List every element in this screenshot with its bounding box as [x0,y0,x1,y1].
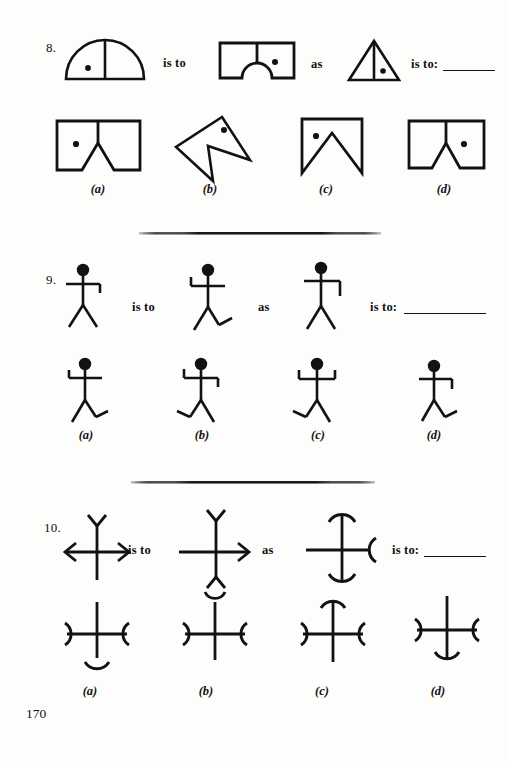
q10-option-a-figure[interactable] [54,596,140,674]
q10-option-c-figure[interactable] [290,592,376,672]
q9-prompt-figure-3 [296,260,354,332]
q9-option-d-label: (d) [414,428,454,443]
q8-option-c-figure[interactable] [298,116,368,178]
q8-option-a-figure[interactable] [54,118,144,176]
q10-answer-blank[interactable] [424,556,486,557]
q9-option-b-figure[interactable] [172,356,234,426]
section-divider-2 [131,481,375,483]
q8-prompt-figure-2 [217,40,297,82]
q9-prompt-figure-2 [182,262,242,334]
q9-option-b-label: (b) [182,428,222,443]
q8-option-a-label: (a) [78,182,118,197]
q8-option-d-label: (d) [424,182,464,197]
q8-option-b-label: (b) [190,182,230,197]
q9-option-a-figure[interactable] [60,356,116,426]
page-number: 170 [26,706,46,722]
q10-option-d-figure[interactable] [404,592,490,672]
worksheet-page: 8. is to as is to: [0,0,507,762]
q8-connector-as: as [311,57,323,72]
q10-prompt-figure-1 [56,512,138,584]
question-9-number: 9. [46,270,56,288]
question-8-number: 8. [46,38,56,56]
q8-connector-is-to: is to [163,56,186,71]
q9-prompt-figure-1 [58,262,114,330]
q9-connector-is-to: is to [132,300,155,315]
q9-option-c-figure[interactable] [288,356,350,426]
q10-connector-as: as [262,543,274,558]
q8-option-b-figure[interactable] [170,112,254,184]
q9-connector-is-to-colon: is to: [370,300,397,315]
q10-option-d-label: (d) [418,684,458,699]
q8-option-c-label: (c) [306,182,346,197]
q9-connector-as: as [258,300,270,315]
q10-option-c-label: (c) [302,684,342,699]
q9-answer-blank[interactable] [404,313,486,314]
q8-option-d-figure[interactable] [406,118,488,174]
section-divider-1 [139,232,381,234]
q9-option-a-label: (a) [66,428,106,443]
q8-answer-blank[interactable] [443,70,495,71]
q10-connector-is-to: is to [128,543,151,558]
q10-option-a-label: (a) [70,684,110,699]
q10-prompt-figure-3 [300,506,384,590]
q10-option-b-label: (b) [186,684,226,699]
q9-option-d-figure[interactable] [412,358,468,426]
q8-prompt-figure-1 [62,38,148,84]
q9-option-c-label: (c) [298,428,338,443]
q10-connector-is-to-colon: is to: [392,543,419,558]
q10-prompt-figure-2 [173,506,259,592]
q10-option-b-figure[interactable] [172,588,258,672]
q8-connector-is-to-colon: is to: [411,57,438,72]
q8-prompt-figure-3 [345,38,403,84]
